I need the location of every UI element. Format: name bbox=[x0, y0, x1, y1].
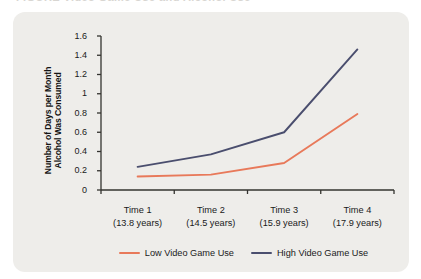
page-heading-text: FIGURE Video Game Use and Alcohol Use bbox=[16, 0, 251, 3]
plot-area bbox=[91, 34, 396, 200]
series-line bbox=[138, 49, 358, 166]
x-tick-group: Time 1(13.8 years) bbox=[100, 204, 176, 229]
x-tick-group: Time 4(17.9 years) bbox=[319, 204, 395, 229]
y-tick-label: 1.6 bbox=[65, 32, 87, 41]
data-series bbox=[138, 49, 358, 176]
legend-swatch bbox=[251, 252, 272, 254]
x-tick-sublabel: (17.9 years) bbox=[319, 217, 395, 230]
figure-panel: Number of Days per Month Alcohol Was Con… bbox=[13, 12, 409, 272]
x-tick-label: Time 3 bbox=[246, 204, 322, 217]
x-tick-label: Time 4 bbox=[319, 204, 395, 217]
legend-label: High Video Game Use bbox=[277, 248, 368, 258]
x-tick-sublabel: (14.5 years) bbox=[173, 217, 249, 230]
y-tick-label: 0.8 bbox=[65, 109, 87, 118]
legend-swatch bbox=[119, 252, 140, 254]
y-tick-label: 0.6 bbox=[65, 128, 87, 137]
y-axis-title-line-1: Number of Days per Month bbox=[43, 54, 53, 186]
y-axis-title-line-2: Alcohol Was Consumed bbox=[53, 54, 63, 186]
y-axis-tick-labels: 00.20.40.60.811.21.41.6 bbox=[63, 34, 87, 200]
x-tick-group: Time 3(15.9 years) bbox=[246, 204, 322, 229]
y-tick-label: 0 bbox=[65, 186, 87, 195]
y-tick-label: 0.2 bbox=[65, 166, 87, 175]
series-line bbox=[138, 114, 358, 177]
x-tick-label: Time 2 bbox=[173, 204, 249, 217]
line-chart-svg bbox=[91, 34, 396, 200]
chart-legend: Low Video Game UseHigh Video Game Use bbox=[91, 248, 396, 258]
y-tick-label: 0.4 bbox=[65, 147, 87, 156]
legend-label: Low Video Game Use bbox=[145, 248, 234, 258]
x-tick-group: Time 2(14.5 years) bbox=[173, 204, 249, 229]
legend-entry[interactable]: High Video Game Use bbox=[251, 248, 368, 258]
x-tick-sublabel: (13.8 years) bbox=[100, 217, 176, 230]
x-tick-sublabel: (15.9 years) bbox=[246, 217, 322, 230]
y-tick-label: 1 bbox=[65, 89, 87, 98]
legend-entry[interactable]: Low Video Game Use bbox=[119, 248, 234, 258]
x-tick-label: Time 1 bbox=[100, 204, 176, 217]
y-tick-label: 1.2 bbox=[65, 70, 87, 79]
y-axis-title: Number of Days per Month Alcohol Was Con… bbox=[43, 54, 64, 186]
x-axis-tick-labels: Time 1(13.8 years)Time 2(14.5 years)Time… bbox=[91, 204, 396, 238]
page-heading-remnant: FIGURE Video Game Use and Alcohol Use bbox=[0, 0, 421, 9]
y-tick-label: 1.4 bbox=[65, 51, 87, 60]
